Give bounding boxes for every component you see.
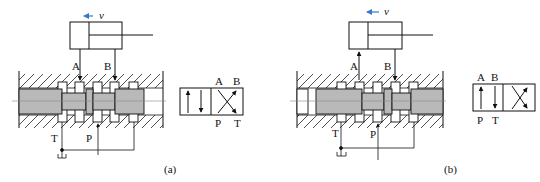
port-label-b-P: P [370, 128, 376, 140]
spool-b [290, 89, 446, 114]
port-label-b-top-B: B [384, 60, 391, 72]
symbol-a-label-T: T [234, 117, 241, 129]
hydraulic-valve-diagram: v A B [0, 0, 540, 182]
caption-a: (a) [164, 163, 177, 176]
symbol-b-label-B: B [491, 71, 498, 83]
port-label-b-top-A: A [350, 60, 358, 72]
port-label-a-top-A: A [72, 60, 80, 72]
symbol-b-label-A: A [477, 71, 485, 83]
port-label-b-T: T [332, 127, 339, 139]
velocity-indicator-a: v [84, 9, 104, 21]
panel-a: v A B [12, 9, 243, 176]
cylinder-a [70, 22, 153, 80]
valve-symbol-b [473, 84, 535, 111]
velocity-label: v [99, 9, 104, 21]
port-label-a-P: P [86, 132, 92, 144]
panel-b: v A B [290, 5, 535, 176]
caption-b: (b) [444, 163, 457, 176]
port-label-a-top-B: B [104, 60, 111, 72]
symbol-a-label-A: A [215, 75, 223, 87]
valve-symbol-a [180, 88, 243, 115]
symbol-a-label-B: B [233, 75, 240, 87]
velocity-label: v [384, 5, 389, 17]
velocity-indicator-b: v [367, 5, 389, 17]
symbol-b-label-T: T [492, 114, 499, 126]
port-label-a-T: T [51, 132, 58, 144]
symbol-a-label-P: P [215, 117, 221, 129]
spool-a [12, 89, 166, 114]
symbol-b-label-P: P [477, 114, 483, 126]
